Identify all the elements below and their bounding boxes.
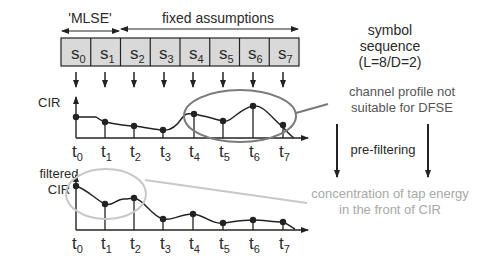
svg-text:t7: t7 bbox=[279, 234, 290, 255]
svg-text:t3: t3 bbox=[160, 142, 171, 163]
symbol-boxes bbox=[61, 38, 299, 66]
mlse-label: 'MLSE' bbox=[68, 10, 111, 26]
svg-text:t0: t0 bbox=[72, 142, 83, 163]
fixed-assumptions-label: fixed assumptions bbox=[162, 10, 274, 26]
symbol-sequence-line3: (L=8/D=2) bbox=[358, 54, 421, 70]
cir-annotation-line2: suitable for DFSE bbox=[351, 100, 453, 115]
svg-text:t1: t1 bbox=[101, 234, 112, 255]
symbol-sequence-line2: sequence bbox=[360, 38, 421, 54]
cir-tick-labels: t0 t1 t2 t3 t4 t5 t6 t7 bbox=[72, 142, 290, 163]
svg-text:t2: t2 bbox=[130, 234, 141, 255]
svg-text:t2: t2 bbox=[130, 142, 141, 163]
dfse-prefilter-diagram: 'MLSE' fixed assumptions s0 s1 s2 s3 s4 … bbox=[0, 0, 487, 263]
symbol-down-arrows bbox=[76, 72, 283, 87]
cir-annotation-line1: channel profile not bbox=[349, 84, 456, 99]
filtered-cir-label-line1: filtered bbox=[39, 166, 78, 181]
svg-text:t0: t0 bbox=[72, 234, 83, 255]
filtered-annotation-line2: in the front of CIR bbox=[339, 202, 441, 217]
svg-text:t7: t7 bbox=[279, 142, 290, 163]
svg-text:t1: t1 bbox=[101, 142, 112, 163]
cir-label: CIR bbox=[38, 95, 60, 110]
svg-text:t5: t5 bbox=[219, 142, 230, 163]
filtered-cir-plot bbox=[73, 175, 308, 230]
svg-text:t6: t6 bbox=[249, 234, 260, 255]
prefiltering-label: pre-filtering bbox=[350, 142, 415, 157]
svg-text:t3: t3 bbox=[160, 234, 171, 255]
filtered-cir-tick-labels: t0 t1 t2 t3 t4 t5 t6 t7 bbox=[72, 234, 290, 255]
symbol-sequence-line1: symbol bbox=[368, 22, 412, 38]
svg-text:t5: t5 bbox=[219, 234, 230, 255]
svg-text:t6: t6 bbox=[249, 142, 260, 163]
svg-text:t4: t4 bbox=[189, 142, 200, 163]
svg-text:t4: t4 bbox=[189, 234, 200, 255]
filtered-annotation-line1: concentration of tap energy bbox=[311, 186, 469, 201]
filtered-cir-highlight-ellipse bbox=[66, 169, 307, 219]
